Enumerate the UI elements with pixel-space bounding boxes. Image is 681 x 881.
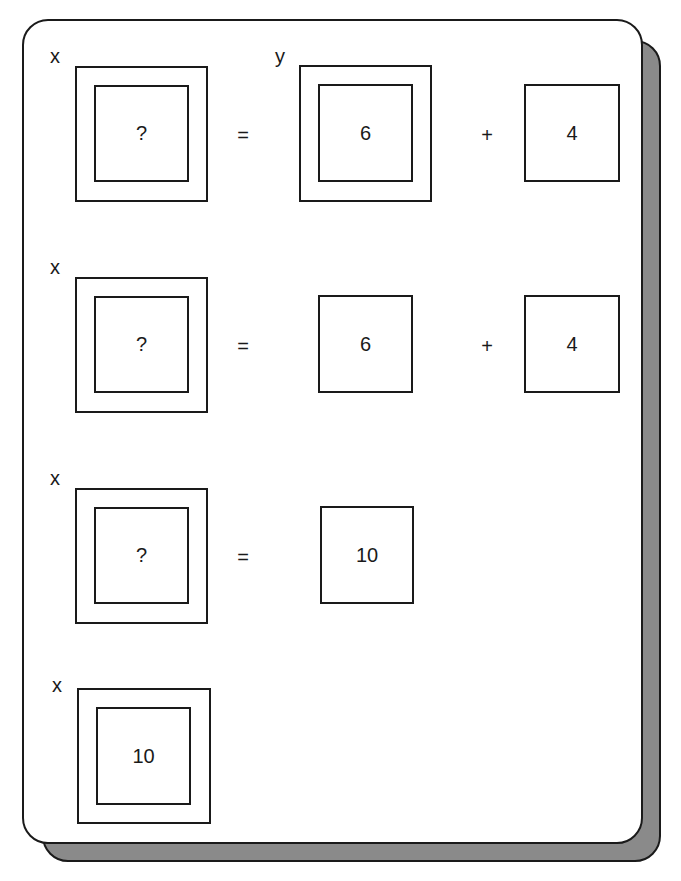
value-box-x: ? <box>94 85 189 182</box>
variable-label-x: x <box>50 46 60 66</box>
equals-sign: = <box>233 125 253 145</box>
value-box-y: 6 <box>318 84 413 182</box>
value-box-x: ? <box>94 296 189 393</box>
variable-label-y: y <box>275 46 285 66</box>
equals-sign: = <box>233 336 253 356</box>
literal-box: 6 <box>318 295 413 393</box>
literal-box: 4 <box>524 84 620 182</box>
variable-label-x: x <box>50 257 60 277</box>
variable-label-x: x <box>50 468 60 488</box>
literal-box: 10 <box>320 506 414 604</box>
variable-label-x: x <box>52 675 62 695</box>
plus-sign: + <box>477 336 497 356</box>
value-box-x: 10 <box>96 707 191 805</box>
value-box-x: ? <box>94 507 189 604</box>
literal-box: 4 <box>524 295 620 393</box>
plus-sign: + <box>477 125 497 145</box>
equals-sign: = <box>233 547 253 567</box>
